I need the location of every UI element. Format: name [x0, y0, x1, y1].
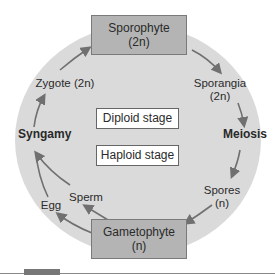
gametophyte-box: Gametophyte (n) [91, 219, 187, 259]
arrow-syngamy-to-zygote [34, 96, 44, 127]
gametophyte-label: Gametophyte [92, 225, 186, 239]
sperm-label: Sperm [66, 191, 106, 204]
footer-tab [24, 269, 60, 275]
spores-ploidy: (n) [201, 197, 243, 210]
spores-label: Spores (n) [201, 184, 243, 210]
syngamy-label: Syngamy [18, 128, 76, 141]
sporophyte-label: Sporophyte [92, 21, 186, 35]
arrow-sporangia-to-meiosis [238, 103, 244, 125]
sporangia-name: Sporangia [190, 77, 250, 90]
diploid-stage-label: Diploid stage [96, 108, 179, 129]
haploid-stage-label: Haploid stage [96, 145, 179, 166]
arrow-meiosis-to-spores [232, 150, 240, 176]
sporophyte-ploidy: (2n) [92, 35, 186, 49]
gametophyte-ploidy: (n) [92, 239, 186, 253]
spores-name: Spores [201, 184, 243, 197]
meiosis-label: Meiosis [212, 128, 267, 141]
sporangia-label: Sporangia (2n) [190, 77, 250, 103]
arrow-gametophyte-to-sperm [85, 206, 108, 220]
sporangia-ploidy: (2n) [190, 90, 250, 103]
arrow-sporophyte-to-sporangia [192, 50, 220, 72]
sporophyte-box: Sporophyte (2n) [91, 15, 187, 55]
zygote-label: Zygote (2n) [30, 77, 100, 90]
arrow-zygote-to-sporophyte [60, 48, 89, 70]
arrow-gametophyte-to-egg [58, 214, 92, 233]
egg-label: Egg [38, 199, 64, 212]
